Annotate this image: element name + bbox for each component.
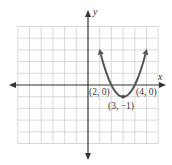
y-axis-up-arrow-icon — [85, 10, 91, 17]
x-axis-left-arrow-icon — [9, 82, 16, 88]
x-axis-label: x — [157, 71, 163, 82]
point-label-4-0: (4, 0) — [136, 87, 157, 98]
point-label-3-neg1: (3, −1) — [108, 101, 134, 112]
vertex-point — [121, 95, 125, 99]
y-axis-label: y — [92, 6, 98, 17]
point-label-2-0: (2, 0) — [89, 87, 110, 98]
graph: y x (2, 0) (3, −1) (4, 0) — [0, 0, 172, 165]
y-axis-down-arrow-icon — [85, 153, 91, 160]
x-axis-right-arrow-icon — [159, 82, 166, 88]
